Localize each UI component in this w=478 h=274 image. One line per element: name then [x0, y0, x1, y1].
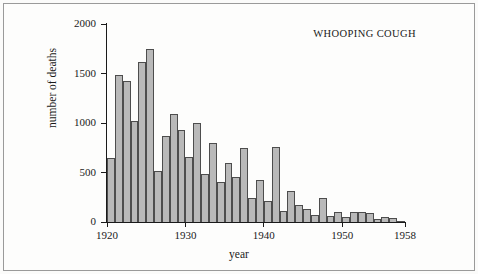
bar — [178, 130, 186, 222]
bar — [264, 201, 272, 222]
plot-area — [107, 24, 405, 222]
y-tick-label: 0 — [91, 216, 97, 227]
bar — [225, 163, 233, 222]
x-tick-mark — [107, 222, 108, 227]
bar — [201, 174, 209, 223]
bar — [162, 136, 170, 222]
y-tick-label: 500 — [80, 167, 97, 178]
bar — [327, 216, 335, 222]
figure-container: WHOOPING COUGH number of deaths year 050… — [0, 0, 478, 274]
x-axis-label: year — [0, 248, 478, 260]
bar — [217, 182, 225, 222]
bar — [146, 49, 154, 222]
y-tick-label: 2000 — [74, 18, 96, 29]
bar — [287, 191, 295, 222]
bar — [131, 121, 139, 222]
bar — [170, 114, 178, 222]
x-tick-mark — [185, 222, 186, 227]
bar — [209, 143, 217, 222]
x-tick-label: 1958 — [394, 229, 416, 241]
x-tick-mark — [263, 222, 264, 227]
x-tick-label: 1920 — [96, 229, 118, 241]
bar — [107, 158, 115, 222]
x-tick-label: 1940 — [253, 229, 275, 241]
bar — [397, 221, 405, 222]
bar — [374, 219, 382, 222]
bar — [319, 198, 327, 222]
bar — [280, 211, 288, 222]
bar — [366, 213, 374, 222]
bar — [358, 212, 366, 222]
y-tick-label: 1500 — [74, 68, 96, 79]
bar — [389, 218, 397, 222]
bar — [272, 147, 280, 222]
y-tick-label: 1000 — [74, 117, 96, 128]
bar — [350, 212, 358, 222]
x-axis-line — [106, 222, 406, 223]
bar — [303, 209, 311, 222]
bar — [311, 215, 319, 222]
x-tick-mark — [342, 222, 343, 227]
bar — [123, 81, 131, 222]
bar — [256, 180, 264, 222]
bar — [232, 177, 240, 222]
x-tick-label: 1930 — [174, 229, 196, 241]
bar — [248, 198, 256, 222]
bar — [115, 75, 123, 223]
y-axis-label: number of deaths — [46, 33, 58, 143]
bar — [185, 157, 193, 222]
bar — [334, 212, 342, 222]
bar — [381, 217, 389, 222]
bar — [138, 62, 146, 222]
x-tick-label: 1950 — [331, 229, 353, 241]
bar — [342, 217, 350, 222]
x-tick-mark — [405, 222, 406, 227]
bar — [240, 148, 248, 222]
bar — [295, 205, 303, 222]
bar — [154, 171, 162, 222]
bar — [193, 123, 201, 222]
